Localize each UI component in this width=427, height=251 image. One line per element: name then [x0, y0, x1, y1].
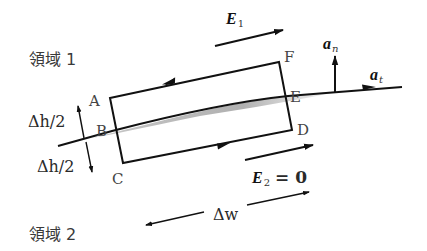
point-A-label: A: [88, 92, 100, 110]
dh-upper-label: Δh/2: [28, 112, 65, 131]
point-F-label: F: [284, 48, 294, 66]
an-label: an: [323, 35, 338, 54]
contour-arrow-bottom-icon: [217, 143, 230, 150]
e2-arrow-icon: [245, 145, 313, 160]
region-1-label: 領域 1: [29, 50, 76, 69]
point-B-label: B: [96, 122, 107, 140]
region-2-label: 領域 2: [29, 225, 76, 244]
boundary-condition-diagram: 領域 1 領域 2 A B C D E F Δh/2 Δh/2 E1 an at…: [0, 0, 427, 251]
interface-boundary: [58, 87, 402, 146]
contour-arrow-top-head-icon: [162, 78, 174, 84]
point-C-label: C: [112, 170, 123, 188]
point-D-label: D: [297, 121, 309, 139]
e1-label: E1: [225, 10, 244, 29]
dh-lower-arrow-icon: [86, 142, 92, 172]
e1-arrow-icon: [215, 30, 283, 46]
at-label: at: [370, 66, 384, 85]
point-E-label: E: [290, 88, 301, 106]
dh-lower-label: Δh/2: [37, 157, 74, 176]
dh-upper-arrow-icon: [78, 106, 84, 138]
dw-label: Δw: [213, 205, 239, 224]
dw-right-arrow-icon: [247, 192, 309, 205]
e2-label: E2= 0: [251, 167, 307, 188]
dw-left-arrow-icon: [146, 212, 204, 225]
